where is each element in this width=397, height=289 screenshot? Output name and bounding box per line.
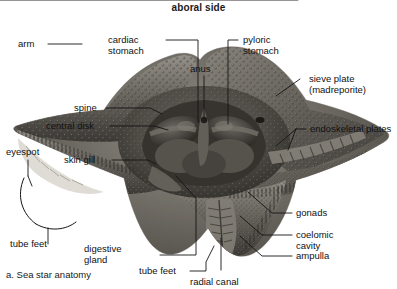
sea-star-anatomy-figure: aboral side (0, 0, 397, 289)
label-tube-feet-bottom: tube feet (139, 265, 176, 276)
label-coelomic-cavity: coelomic cavity (296, 229, 334, 251)
label-eyespot: eyespot (6, 146, 39, 157)
figure-title: aboral side (0, 2, 397, 13)
label-tube-feet-left: tube feet (10, 238, 47, 249)
label-digestive-gland: digestive gland (84, 243, 122, 265)
label-radial-canal: radial canal (190, 276, 239, 287)
label-cardiac-stomach: cardiac stomach (108, 34, 144, 56)
label-skin-gill: skin gill (64, 154, 95, 165)
figure-caption: a. Sea star anatomy (6, 269, 91, 280)
label-gonads: gonads (296, 207, 327, 218)
label-pyloric-stomach: pyloric stomach (243, 34, 279, 56)
label-central-disk: central disk (46, 120, 94, 131)
label-endoskeletal-plates: endoskeletal plates (310, 123, 391, 134)
label-arm: arm (18, 38, 34, 49)
label-spine: spine (74, 102, 97, 113)
label-ampulla: ampulla (296, 250, 329, 261)
sea-star-photograph (0, 14, 397, 276)
label-sieve-plate: sieve plate (madreporite) (309, 73, 366, 95)
label-anus: anus (190, 63, 211, 74)
